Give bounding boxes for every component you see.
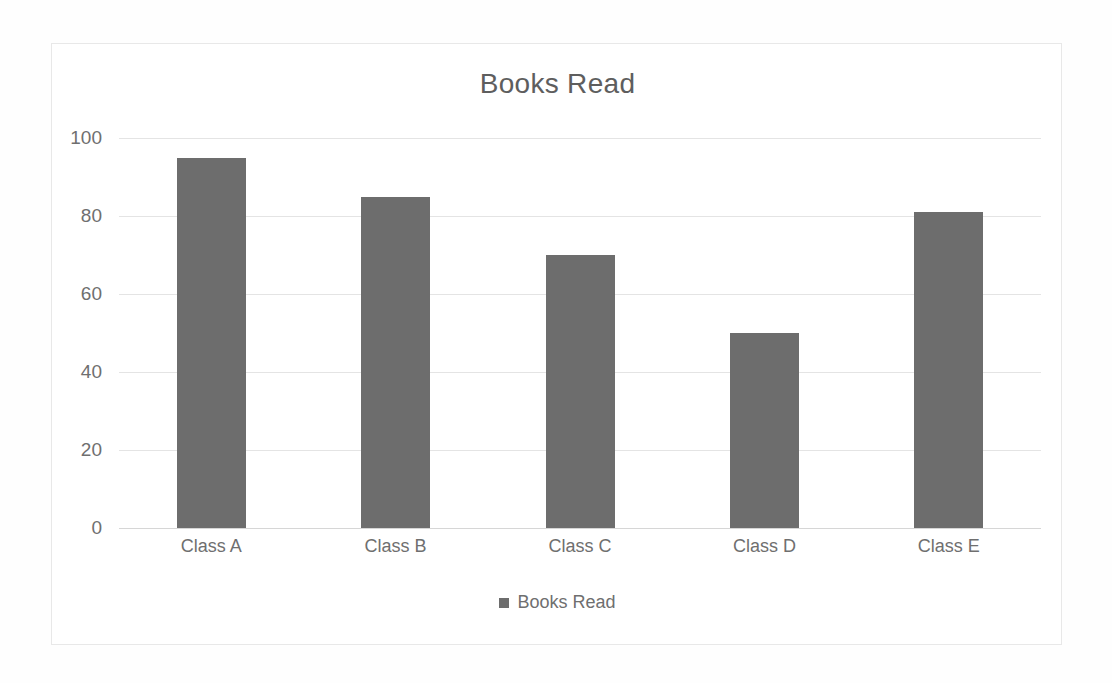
y-axis-tick-label-80: 80 bbox=[81, 205, 102, 227]
scanned-page: Books Read 100 80 60 40 20 0 bbox=[0, 0, 1112, 683]
bar-group bbox=[119, 138, 1041, 528]
bar-class-b[interactable] bbox=[361, 197, 430, 529]
y-axis-tick-label-100: 100 bbox=[70, 127, 102, 149]
chart-legend: Books Read bbox=[52, 592, 1063, 613]
y-axis-tick-label-20: 20 bbox=[81, 439, 102, 461]
x-axis-tick-label-class-d: Class D bbox=[672, 536, 856, 557]
x-axis-tick-label-class-b: Class B bbox=[303, 536, 487, 557]
bar-class-c[interactable] bbox=[546, 255, 615, 528]
chart-frame: Books Read 100 80 60 40 20 0 bbox=[51, 43, 1062, 645]
bar-slot bbox=[857, 138, 1041, 528]
gridline-0-baseline: 0 bbox=[119, 528, 1041, 529]
legend-item-books-read[interactable]: Books Read bbox=[499, 592, 615, 613]
plot-area: 100 80 60 40 20 0 bbox=[119, 138, 1041, 528]
x-axis-tick-label-class-e: Class E bbox=[857, 536, 1041, 557]
x-axis-tick-label-class-c: Class C bbox=[488, 536, 672, 557]
bar-slot bbox=[488, 138, 672, 528]
chart-title: Books Read bbox=[52, 68, 1063, 100]
bar-class-a[interactable] bbox=[177, 158, 246, 529]
x-axis-labels: Class A Class B Class C Class D Class E bbox=[119, 536, 1041, 557]
bar-slot bbox=[303, 138, 487, 528]
bar-slot bbox=[672, 138, 856, 528]
bar-slot bbox=[119, 138, 303, 528]
legend-swatch-icon bbox=[499, 598, 509, 608]
y-axis-tick-label-40: 40 bbox=[81, 361, 102, 383]
legend-label: Books Read bbox=[517, 592, 615, 613]
bar-class-e[interactable] bbox=[914, 212, 983, 528]
x-axis-tick-label-class-a: Class A bbox=[119, 536, 303, 557]
y-axis-tick-label-60: 60 bbox=[81, 283, 102, 305]
bar-class-d[interactable] bbox=[730, 333, 799, 528]
y-axis-tick-label-0: 0 bbox=[91, 517, 102, 539]
